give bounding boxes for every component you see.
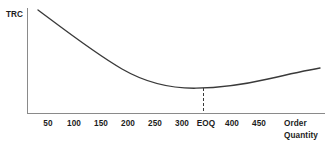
x-axis-title-line1: Order (284, 119, 308, 128)
x-tick-label-400: 400 (225, 119, 239, 128)
x-tick-label-150: 150 (94, 119, 108, 128)
eoq-cost-chart: TRC 50 100 150 200 250 300 EOQ 400 450 O… (0, 0, 328, 150)
x-tick-label-100: 100 (67, 119, 81, 128)
x-axis-title-line2: Quantity (284, 131, 318, 140)
x-tick-label-450: 450 (252, 119, 266, 128)
x-tick-label-200: 200 (121, 119, 135, 128)
chart-canvas: TRC 50 100 150 200 250 300 EOQ 400 450 O… (0, 0, 328, 150)
x-tick-label-eoq: EOQ (197, 119, 216, 128)
total-relevant-cost-curve (38, 10, 320, 88)
x-tick-label-50: 50 (43, 119, 53, 128)
x-tick-label-250: 250 (148, 119, 162, 128)
x-tick-label-300: 300 (175, 119, 189, 128)
y-axis-label: TRC (6, 10, 23, 19)
